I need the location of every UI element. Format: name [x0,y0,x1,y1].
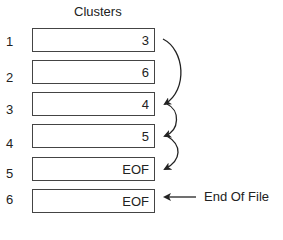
chain-arrow-3-to-4 [165,104,177,136]
chain-arrow-1-to-3 [163,39,181,104]
end-of-file-label: End Of File [204,189,269,204]
chain-arrow-4-to-5 [165,136,178,169]
